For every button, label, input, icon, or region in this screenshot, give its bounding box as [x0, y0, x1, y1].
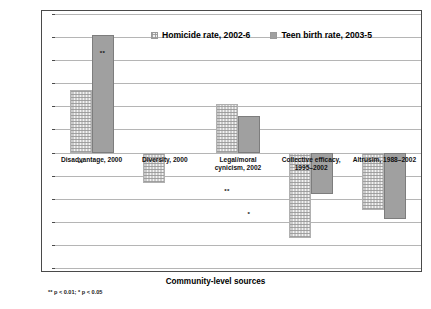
significance-footnote: ** p < 0.01; * p < 0.05: [48, 289, 102, 295]
legend-item-teen-birth-rate: Teen birth rate, 2003-5: [270, 30, 372, 40]
significance-marker: **: [83, 49, 123, 56]
legend-label-homicide-rate: Homicide rate, 2002-6: [162, 30, 250, 40]
significance-marker: *: [229, 210, 269, 217]
bar[interactable]: **: [216, 104, 238, 152]
gridline: [55, 268, 421, 269]
category-label: Altrusim, 1988–2002: [342, 156, 427, 164]
bar[interactable]: *: [238, 116, 260, 153]
bar-group: [128, 14, 201, 268]
bar[interactable]: **: [70, 90, 92, 152]
legend-swatch-solid-icon: [270, 32, 277, 39]
legend-label-teen-birth-rate: Teen birth rate, 2003-5: [281, 30, 372, 40]
bar[interactable]: **: [92, 35, 114, 153]
bar-group: ***: [275, 14, 348, 268]
chart-legend: Homicide rate, 2002-6 Teen birth rate, 2…: [151, 30, 372, 40]
plot-area: 0.600.500.400.300.200.100.00-0.10-0.20-0…: [55, 14, 421, 268]
legend-item-homicide-rate: Homicide rate, 2002-6: [151, 30, 250, 40]
bar-group: ****: [55, 14, 128, 268]
legend-swatch-dotted-icon: [151, 32, 158, 39]
chart-figure: Standardized coefficients 0.600.500.400.…: [0, 0, 431, 309]
significance-marker: **: [207, 187, 247, 194]
bars-layer: **************: [55, 14, 421, 268]
bar-group: ***: [201, 14, 274, 268]
y-tick-mark: [52, 268, 55, 269]
bar-group: ****: [348, 14, 421, 268]
x-axis-title: Community-level sources: [0, 277, 431, 286]
